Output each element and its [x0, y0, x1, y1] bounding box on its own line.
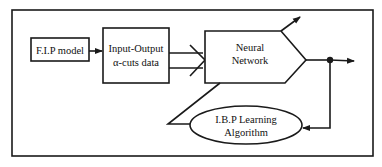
- io-label-line2: α-cuts data: [113, 57, 159, 68]
- io-to-nn-double-arrow: [169, 45, 205, 76]
- output-arrow: [330, 60, 354, 61]
- nn-up-arrow: [281, 17, 300, 31]
- fip-model-node: F.I.P model: [31, 38, 89, 61]
- nn-label-line2: Network: [232, 55, 269, 66]
- ibp-label-line2: Algorithm: [224, 127, 268, 138]
- fip-model-label: F.I.P model: [36, 45, 84, 56]
- nn-label-line1: Neural: [236, 42, 265, 53]
- outer-frame: [12, 10, 373, 156]
- block-diagram: F.I.P model Input-Output α-cuts data Neu…: [0, 0, 382, 167]
- ibp-label-line1: I.B.P Learning: [215, 114, 277, 125]
- feedback-path: [303, 60, 330, 128]
- io-data-node: Input-Output α-cuts data: [103, 28, 169, 83]
- ibp-learning-node: I.B.P Learning Algorithm: [190, 106, 302, 144]
- io-label-line1: Input-Output: [109, 43, 164, 54]
- neural-network-node: Neural Network: [205, 31, 306, 83]
